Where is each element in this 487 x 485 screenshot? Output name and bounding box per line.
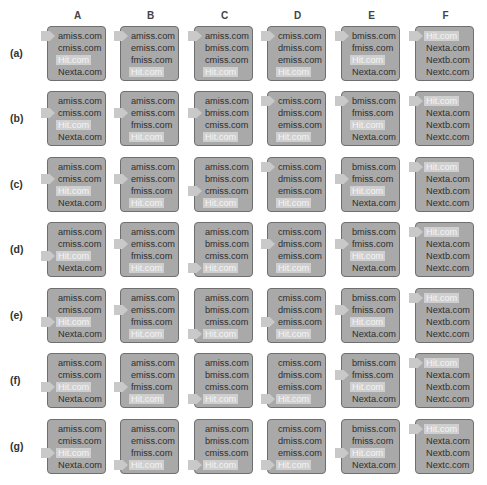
- list-item-text: Nextc.com: [424, 198, 471, 208]
- list-item-text: fmiss.com: [350, 370, 395, 380]
- list-item: emiss.com: [278, 54, 325, 66]
- list-item-text: Hit.com: [129, 198, 164, 208]
- column-header-b: B: [120, 10, 181, 21]
- hit-item: Hit.com: [352, 119, 399, 131]
- list-item-text: fmiss.com: [350, 108, 395, 118]
- list-item: cmiss.com: [205, 381, 252, 393]
- list-cell: amiss.combmiss.comcmiss.comHit.com: [194, 91, 253, 146]
- list-item-text: fmiss.com: [350, 43, 395, 53]
- list-item: amiss.com: [58, 226, 105, 238]
- list-item: fmiss.com: [131, 54, 178, 66]
- list-item-text: fmiss.com: [350, 174, 395, 184]
- list-item-text: Nexta.com: [56, 67, 104, 77]
- hit-item: Hit.com: [278, 131, 325, 143]
- list-item-text: emiss.com: [129, 174, 177, 184]
- list-cell: cmiss.comdmiss.comemiss.comHit.com: [267, 157, 326, 212]
- list-cell: cmiss.comdmiss.comemiss.comHit.com: [267, 91, 326, 146]
- list-item: amiss.com: [58, 292, 105, 304]
- list-item-text: Nexta.com: [424, 174, 472, 184]
- list-item: emiss.com: [278, 185, 325, 197]
- list-item-text: dmiss.com: [276, 43, 324, 53]
- hit-item: Hit.com: [131, 393, 178, 405]
- list-item: dmiss.com: [278, 42, 325, 54]
- list-item-text: Nexta.com: [350, 460, 398, 470]
- list-item: fmiss.com: [131, 250, 178, 262]
- hit-item: Hit.com: [278, 393, 325, 405]
- list-item-text: cmiss.com: [276, 424, 323, 434]
- list-item-text: cmiss.com: [203, 186, 250, 196]
- list-item: Nexta.com: [58, 459, 105, 471]
- hit-item: Hit.com: [426, 95, 473, 107]
- list-item-text: Nextc.com: [424, 460, 471, 470]
- list-item-text: Nextc.com: [424, 394, 471, 404]
- hit-item: Hit.com: [205, 328, 252, 340]
- list-item-text: bmiss.com: [203, 239, 251, 249]
- list-item: Nexta.com: [352, 262, 399, 274]
- list-item: Nexta.com: [426, 107, 473, 119]
- list-item-text: Nextc.com: [424, 67, 471, 77]
- list-item-text: Hit.com: [424, 227, 459, 237]
- list-item-text: emiss.com: [129, 370, 177, 380]
- list-item-text: Hit.com: [276, 67, 311, 77]
- list-item: bmiss.com: [205, 42, 252, 54]
- list-cell: amiss.comemiss.comfmiss.comHit.com: [120, 157, 179, 212]
- hit-item: Hit.com: [205, 262, 252, 274]
- list-item-text: Nexta.com: [350, 394, 398, 404]
- hit-item: Hit.com: [352, 185, 399, 197]
- list-item-text: Nextc.com: [424, 263, 471, 273]
- list-item-text: Hit.com: [129, 329, 164, 339]
- row-label: (a): [10, 47, 32, 59]
- list-item-text: Hit.com: [276, 460, 311, 470]
- list-item: amiss.com: [131, 226, 178, 238]
- pointer-arrow-icon: [188, 263, 202, 273]
- pointer-arrow-icon: [188, 186, 202, 196]
- list-item: emiss.com: [278, 447, 325, 459]
- list-item-text: fmiss.com: [129, 382, 174, 392]
- pointer-arrow-icon: [409, 358, 423, 368]
- pointer-arrow-icon: [114, 108, 128, 118]
- row-label: (f): [10, 374, 32, 386]
- list-item: amiss.com: [58, 161, 105, 173]
- list-item: bmiss.com: [205, 238, 252, 250]
- list-item-text: dmiss.com: [276, 436, 324, 446]
- list-item-text: amiss.com: [129, 31, 177, 41]
- list-cell: amiss.comemiss.comfmiss.comHit.com: [120, 419, 179, 474]
- list-item: cmiss.com: [205, 119, 252, 131]
- list-item-text: emiss.com: [129, 108, 177, 118]
- pointer-arrow-icon: [409, 96, 423, 106]
- pointer-arrow-icon: [41, 448, 55, 458]
- list-cell: bmiss.comfmiss.comHit.comNexta.com: [341, 157, 400, 212]
- list-item: amiss.com: [205, 292, 252, 304]
- column-header-c: C: [194, 10, 255, 21]
- list-cell: Hit.comNexta.comNextb.comNextc.com: [415, 157, 474, 212]
- hit-item: Hit.com: [352, 54, 399, 66]
- list-item-text: amiss.com: [203, 293, 251, 303]
- list-cell: amiss.comcmiss.comHit.comNexta.com: [47, 91, 106, 146]
- list-cell: Hit.comNexta.comNextb.comNextc.com: [415, 353, 474, 408]
- list-item-text: emiss.com: [276, 186, 324, 196]
- hit-item: Hit.com: [205, 197, 252, 209]
- list-item: Nexta.com: [58, 66, 105, 78]
- list-item-text: Hit.com: [203, 198, 238, 208]
- pointer-arrow-icon: [335, 305, 349, 315]
- list-item: Nexta.com: [426, 42, 473, 54]
- list-item-text: Hit.com: [424, 424, 459, 434]
- list-item: cmiss.com: [278, 292, 325, 304]
- list-item: amiss.com: [58, 357, 105, 369]
- pointer-arrow-icon: [335, 31, 349, 41]
- list-item: Nextb.com: [426, 250, 473, 262]
- list-item-text: cmiss.com: [56, 174, 103, 184]
- list-item: Nexta.com: [352, 328, 399, 340]
- list-cell: amiss.comemiss.comfmiss.comHit.com: [120, 26, 179, 81]
- pointer-arrow-icon: [261, 317, 275, 327]
- list-item-text: cmiss.com: [276, 293, 323, 303]
- list-item-text: Nexta.com: [56, 132, 104, 142]
- list-item-text: fmiss.com: [129, 186, 174, 196]
- list-item: Nexta.com: [426, 435, 473, 447]
- list-item-text: Nextb.com: [424, 317, 472, 327]
- list-item-text: Nexta.com: [56, 460, 104, 470]
- list-item: bmiss.com: [352, 161, 399, 173]
- list-item-text: Hit.com: [350, 382, 385, 392]
- list-item-text: Hit.com: [129, 394, 164, 404]
- list-item: emiss.com: [131, 369, 178, 381]
